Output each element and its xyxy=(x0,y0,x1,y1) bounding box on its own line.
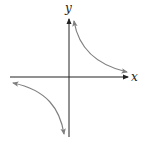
curve-branch-quadrant-3 xyxy=(13,83,64,134)
x-axis-label: x xyxy=(131,70,138,84)
curve-branch-quadrant-1 xyxy=(74,21,127,72)
y-axis-label: y xyxy=(64,1,72,15)
hyperbola-graph: y x xyxy=(0,0,148,146)
